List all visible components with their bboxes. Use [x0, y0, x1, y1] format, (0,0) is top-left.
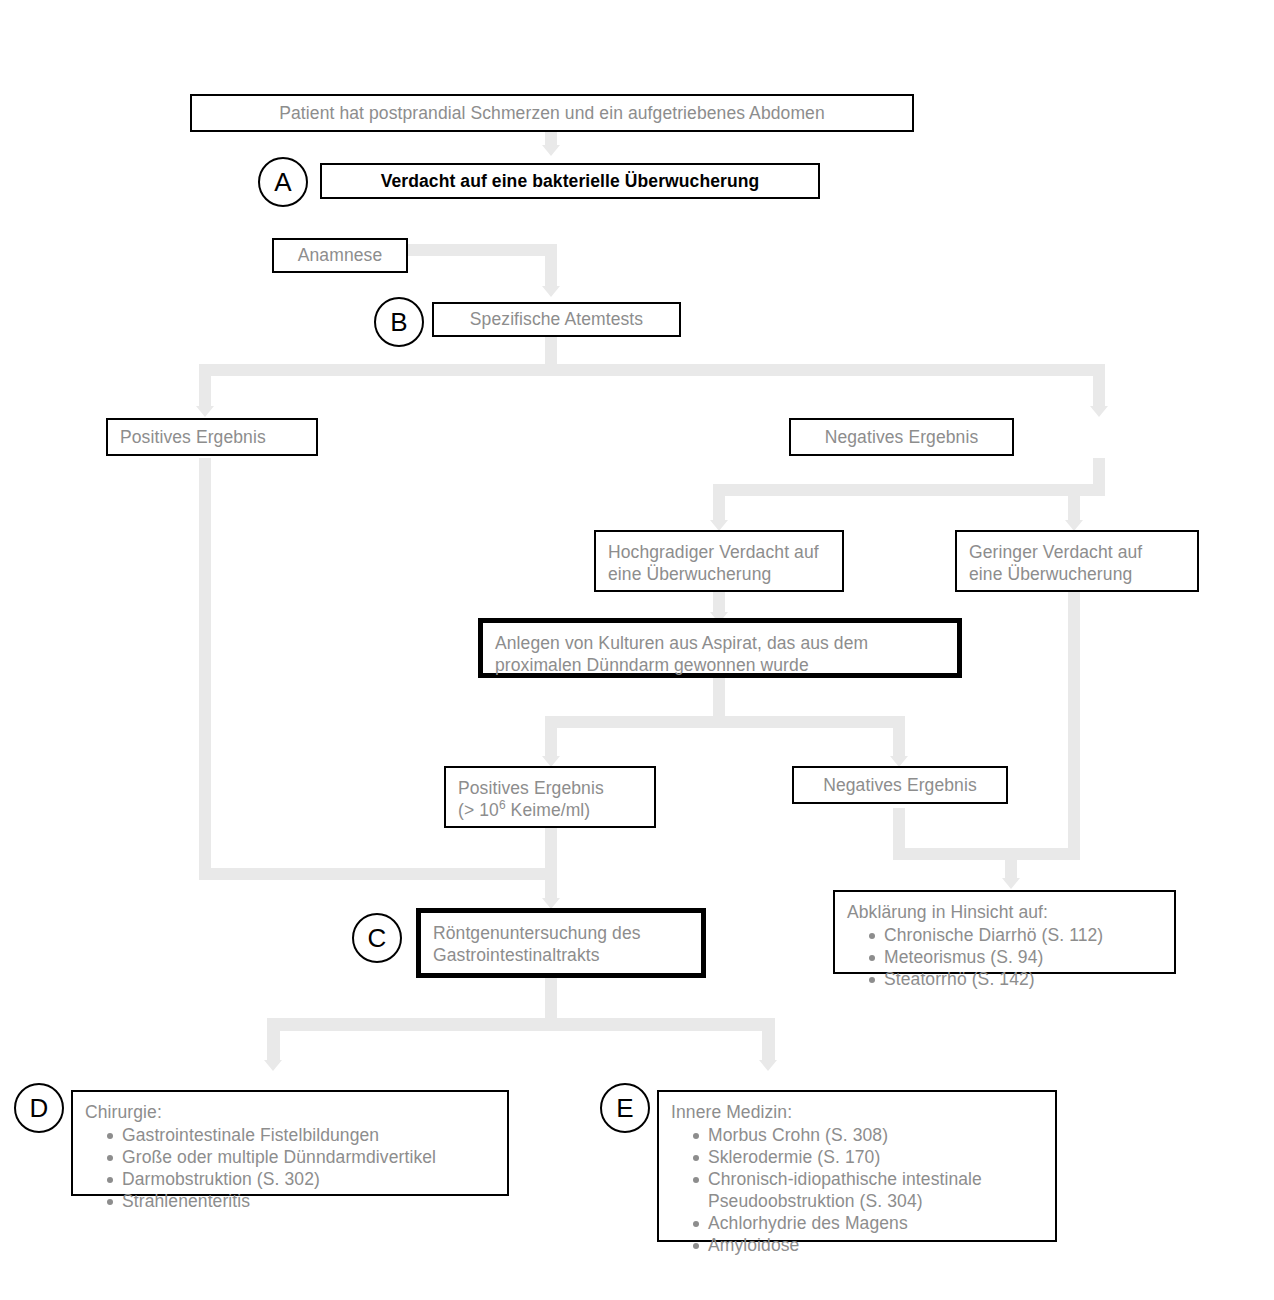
node-innere-medizin[interactable]: Innere Medizin: Morbus Crohn (S. 308) Sk…	[657, 1090, 1057, 1242]
connector-final-fork-bar	[267, 1018, 775, 1031]
innere-medizin-list: Morbus Crohn (S. 308) Sklerodermie (S. 1…	[671, 1124, 1043, 1256]
connector-anamnese-vertical	[545, 244, 557, 288]
arrowhead-abklaerung	[1002, 878, 1020, 889]
arrowhead-atemtests	[542, 286, 560, 297]
arrowhead-verdacht	[542, 145, 560, 156]
chirurgie-list: Gastrointestinale Fistelbildungen Große …	[85, 1124, 495, 1212]
connector-culture-left-drop	[545, 716, 557, 758]
connector-hochgradig-to-kulturen	[713, 592, 725, 614]
marker-b: B	[374, 297, 424, 347]
positives-2-exponent: 6	[499, 798, 506, 812]
node-anlegen-kulturen-line2: proximalen Dünndarm gewonnen wurde	[495, 654, 945, 676]
node-positives-ergebnis-1[interactable]: Positives Ergebnis	[106, 418, 318, 456]
list-item: Achlorhydrie des Magens	[693, 1212, 1043, 1234]
connector-verdacht-left-drop	[713, 484, 725, 522]
connector-roentgen-stem	[545, 978, 557, 1022]
node-roentgenuntersuchung-line1: Röntgenuntersuchung des	[433, 922, 689, 944]
connector-culture-fork-bar	[545, 716, 905, 728]
list-item: Chronisch-idiopathische intestinale Pseu…	[693, 1168, 1043, 1212]
list-item: Steatorrhö (S. 142)	[869, 968, 1162, 990]
connector-anamnese-horizontal	[408, 244, 550, 256]
node-innere-medizin-heading: Innere Medizin:	[671, 1101, 1043, 1123]
node-atemtests-label: Spezifische Atemtests	[446, 308, 667, 330]
list-item: Strahlenenteritis	[107, 1190, 495, 1212]
connector-abklaerung-drop	[1005, 848, 1017, 880]
node-positives-ergebnis-2-line2: (> 106 Keime/ml)	[458, 799, 642, 821]
marker-a-label: A	[274, 167, 291, 198]
flowchart-canvas: Patient hat postprandial Schmerzen und e…	[0, 0, 1274, 1300]
marker-d: D	[14, 1083, 64, 1133]
node-negatives-ergebnis-1-label: Negatives Ergebnis	[803, 426, 1000, 448]
node-negatives-ergebnis-2[interactable]: Negatives Ergebnis	[792, 766, 1008, 804]
node-verdacht[interactable]: Verdacht auf eine bakterielle Überwucher…	[320, 163, 820, 199]
node-roentgenuntersuchung[interactable]: Röntgenuntersuchung des Gastrointestinal…	[416, 908, 706, 978]
marker-b-label: B	[390, 307, 407, 338]
arrowhead-positives-1	[196, 406, 214, 417]
node-anlegen-kulturen-line1: Anlegen von Kulturen aus Aspirat, das au…	[495, 632, 945, 654]
connector-abklaerung-bar	[893, 848, 1080, 860]
list-item: Sklerodermie (S. 170)	[693, 1146, 1043, 1168]
node-anamnese-label: Anamnese	[286, 244, 394, 266]
node-hochgradiger-verdacht[interactable]: Hochgradiger Verdacht auf eine Überwuche…	[594, 530, 844, 592]
node-positives-ergebnis-2-line1: Positives Ergebnis	[458, 777, 642, 799]
connector-fork-left-drop	[199, 364, 211, 408]
list-item: Darmobstruktion (S. 302)	[107, 1168, 495, 1190]
node-geringer-verdacht-line1: Geringer Verdacht auf	[969, 541, 1185, 563]
connector-gering-long-vertical	[1068, 592, 1080, 860]
abklaerung-list: Chronische Diarrhö (S. 112) Meteorismus …	[847, 924, 1162, 990]
connector-result-fork-bar	[199, 364, 1105, 376]
node-abklaerung[interactable]: Abklärung in Hinsicht auf: Chronische Di…	[833, 890, 1176, 974]
list-item: Morbus Crohn (S. 308)	[693, 1124, 1043, 1146]
node-anlegen-kulturen[interactable]: Anlegen von Kulturen aus Aspirat, das au…	[478, 618, 962, 678]
connector-positives1-long-vertical	[199, 458, 211, 880]
node-abklaerung-heading: Abklärung in Hinsicht auf:	[847, 901, 1162, 923]
node-verdacht-label: Verdacht auf eine bakterielle Überwucher…	[334, 170, 806, 192]
node-roentgenuntersuchung-line2: Gastrointestinaltrakts	[433, 944, 689, 966]
connector-atemtests-stem	[545, 336, 557, 366]
node-chirurgie-heading: Chirurgie:	[85, 1101, 495, 1123]
node-geringer-verdacht-line2: eine Überwucherung	[969, 563, 1185, 585]
positives-2-prefix: (> 10	[458, 800, 499, 820]
connector-verdacht-fork-bar	[713, 484, 1105, 496]
list-item: Große oder multiple Dünndarmdivertikel	[107, 1146, 495, 1168]
node-hochgradiger-verdacht-line2: eine Überwucherung	[608, 563, 830, 585]
connector-negatives1-stem	[1093, 458, 1105, 486]
arrowhead-innere	[759, 1060, 777, 1071]
list-item: Meteorismus (S. 94)	[869, 946, 1162, 968]
marker-d-label: D	[30, 1093, 49, 1124]
node-negatives-ergebnis-1[interactable]: Negatives Ergebnis	[789, 418, 1014, 456]
node-chirurgie[interactable]: Chirurgie: Gastrointestinale Fistelbildu…	[71, 1090, 509, 1196]
node-patient[interactable]: Patient hat postprandial Schmerzen und e…	[190, 94, 914, 132]
arrowhead-negatives-1	[1090, 406, 1108, 417]
node-positives-ergebnis-2[interactable]: Positives Ergebnis (> 106 Keime/ml)	[444, 766, 656, 828]
list-item: Chronische Diarrhö (S. 112)	[869, 924, 1162, 946]
arrowhead-chirurgie	[264, 1060, 282, 1071]
node-patient-label: Patient hat postprandial Schmerzen und e…	[204, 102, 900, 124]
connector-roentgen-bar	[199, 868, 557, 880]
marker-e-label: E	[616, 1093, 633, 1124]
marker-c-label: C	[368, 923, 387, 954]
node-hochgradiger-verdacht-line1: Hochgradiger Verdacht auf	[608, 541, 830, 563]
node-geringer-verdacht[interactable]: Geringer Verdacht auf eine Überwucherung	[955, 530, 1199, 592]
node-positives-ergebnis-1-label: Positives Ergebnis	[120, 426, 304, 448]
connector-final-left-drop	[267, 1018, 280, 1062]
connector-fork-right-drop	[1093, 364, 1105, 408]
connector-verdacht-right-drop	[1068, 484, 1080, 522]
list-item: Gastrointestinale Fistelbildungen	[107, 1124, 495, 1146]
positives-2-suffix: Keime/ml)	[506, 800, 591, 820]
node-anamnese[interactable]: Anamnese	[272, 238, 408, 273]
connector-final-right-drop	[762, 1018, 775, 1062]
connector-kulturen-stem	[713, 678, 725, 718]
node-negatives-ergebnis-2-label: Negatives Ergebnis	[806, 774, 994, 796]
list-item: Amyloidose	[693, 1234, 1043, 1256]
marker-c: C	[352, 913, 402, 963]
marker-a: A	[258, 157, 308, 207]
node-atemtests[interactable]: Spezifische Atemtests	[432, 302, 681, 337]
connector-culture-right-drop	[893, 716, 905, 758]
marker-e: E	[600, 1083, 650, 1133]
